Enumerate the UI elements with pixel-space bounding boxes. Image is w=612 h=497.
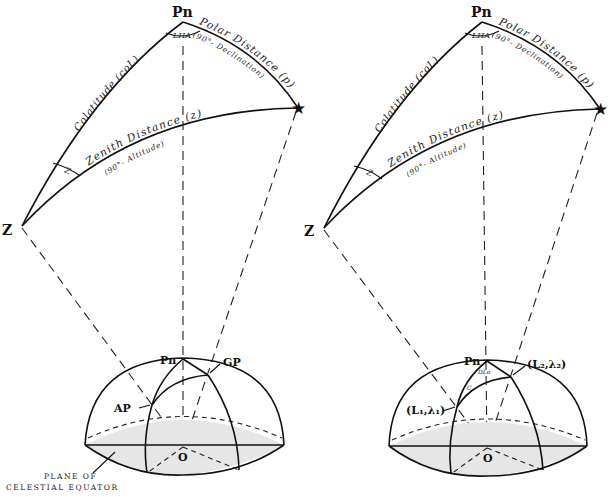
plane-caption-line1: PLANE OF bbox=[44, 472, 97, 481]
point-1-label: (L₁,λ₁) bbox=[406, 404, 445, 417]
zenith-distance-label: Zenith Distance (z) bbox=[384, 108, 505, 169]
pole-label: Pn bbox=[471, 4, 492, 20]
zenith-distance-label: Zenith Distance (z) bbox=[82, 107, 203, 168]
body-projection-line bbox=[487, 113, 597, 448]
right-panel: Pn Z ★ LHA Z Colatitude (coL) Polar Dist… bbox=[304, 4, 608, 476]
center-label: O bbox=[178, 451, 188, 464]
star-icon: ★ bbox=[291, 98, 306, 118]
plane-caption-line2: CELESTIAL EQUATOR bbox=[6, 483, 119, 492]
ap-label: AP bbox=[113, 402, 131, 415]
course-label: C bbox=[467, 384, 472, 391]
gp-label: GP bbox=[223, 356, 241, 369]
polar-distance-label: Polar Distance (p) bbox=[496, 14, 597, 90]
dlo-label: DLo bbox=[477, 368, 491, 375]
pole-label: Pn bbox=[172, 4, 193, 20]
center-label: O bbox=[483, 452, 493, 465]
hemisphere-pole-label: Pn bbox=[464, 355, 480, 368]
zenith-label: Z bbox=[304, 223, 314, 239]
hemisphere-pole-label: Pn bbox=[160, 354, 176, 367]
body-projection-line bbox=[183, 112, 296, 447]
zenith-label: Z bbox=[2, 222, 12, 238]
zenith-projection-line bbox=[22, 228, 183, 447]
left-panel: Pn Z ★ LHA Z Colatitude (coL) Polar Dist… bbox=[2, 4, 306, 492]
colatitude-label: Colatitude (coL) bbox=[71, 53, 141, 133]
pole-projection-line bbox=[482, 46, 487, 448]
lha-label: LHA bbox=[471, 31, 490, 40]
navigational-triangle-diagram: Pn Z ★ LHA Z Colatitude (coL) Polar Dist… bbox=[0, 0, 612, 497]
star-icon: ★ bbox=[593, 99, 608, 119]
lha-label: LHA bbox=[172, 31, 191, 40]
polar-distance-label: Polar Distance (p) bbox=[197, 14, 298, 90]
colatitude-label: Colatitude (coL) bbox=[372, 54, 441, 135]
point-2-label: (L₂,λ₂) bbox=[527, 358, 566, 371]
